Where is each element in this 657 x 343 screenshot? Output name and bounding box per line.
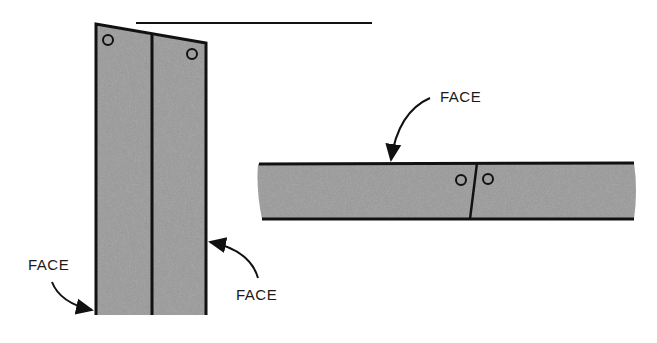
face-label-left: FACE bbox=[28, 256, 69, 273]
face-label-top: FACE bbox=[440, 88, 481, 105]
vertical-boards bbox=[96, 24, 206, 315]
arrow-icon bbox=[210, 242, 258, 278]
horizontal-board bbox=[258, 163, 637, 219]
arrow-icon bbox=[391, 98, 430, 160]
diagram-canvas bbox=[0, 0, 657, 343]
arrow-icon bbox=[52, 282, 92, 310]
face-label-right: FACE bbox=[236, 286, 277, 303]
